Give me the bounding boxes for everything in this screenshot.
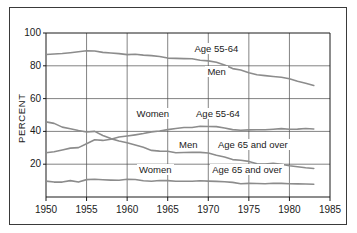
y-tick-label-80: 80 bbox=[8, 60, 41, 71]
annotation-women-65-plus: Women bbox=[137, 164, 174, 175]
annotation-women-55-64: Women bbox=[135, 108, 172, 119]
annotation-women-65-plus-group: Age 65 and over bbox=[210, 164, 284, 175]
x-tick-label-1985: 1985 bbox=[310, 204, 350, 215]
annotation-men-65-plus: Men bbox=[177, 139, 199, 150]
x-tick-label-1955: 1955 bbox=[67, 204, 107, 215]
x-tick-label-1960: 1960 bbox=[107, 204, 147, 215]
annotation-women-55-64-group: Age 55-64 bbox=[194, 108, 242, 119]
x-tick-label-1970: 1970 bbox=[188, 204, 228, 215]
x-tick-label-1965: 1965 bbox=[148, 204, 188, 215]
chart-plot-area: PERCENT 20406080100 19501955196019651970… bbox=[0, 0, 357, 233]
axis-lines bbox=[46, 33, 330, 197]
series-line-3 bbox=[46, 179, 314, 184]
figure-container: PERCENT 20406080100 19501955196019651970… bbox=[0, 0, 357, 233]
y-tick-label-100: 100 bbox=[8, 27, 41, 38]
series-line-0 bbox=[46, 51, 314, 86]
gridlines bbox=[46, 33, 330, 197]
x-tick-label-1950: 1950 bbox=[26, 204, 66, 215]
x-tick-label-1980: 1980 bbox=[269, 204, 309, 215]
y-tick-label-60: 60 bbox=[8, 93, 41, 104]
annotation-men-55-64-group: Age 55-64 bbox=[192, 43, 240, 54]
y-tick-label-40: 40 bbox=[8, 125, 41, 136]
chart-svg bbox=[0, 0, 357, 233]
x-tick-label-1975: 1975 bbox=[229, 204, 269, 215]
annotation-men-65-plus-group: Age 65 and over bbox=[216, 139, 290, 150]
y-tick-label-20: 20 bbox=[8, 158, 41, 169]
annotation-men-55-64: Men bbox=[205, 66, 227, 77]
